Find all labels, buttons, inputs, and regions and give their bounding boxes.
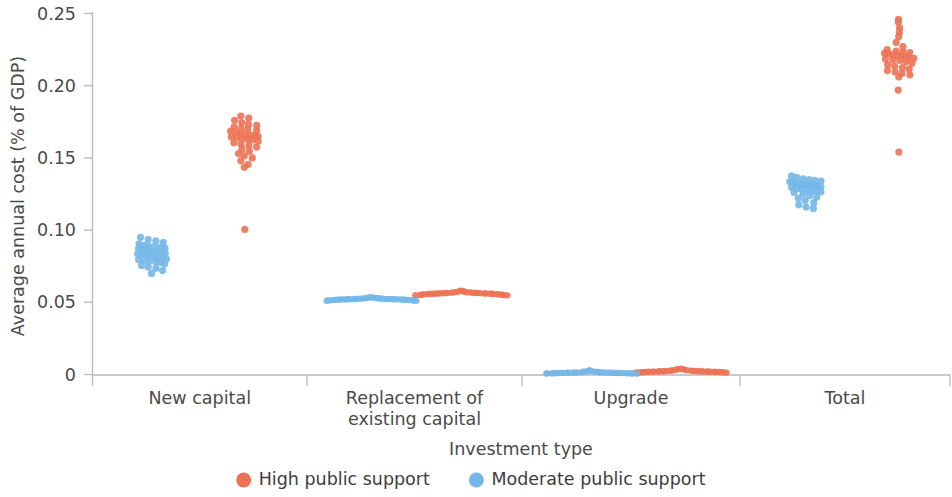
- data-point: [795, 195, 802, 202]
- y-axis-title: Average annual cost (% of GDP): [8, 56, 28, 336]
- y-tick-label: 0.10: [37, 220, 76, 240]
- legend-item-high-public-support[interactable]: High public support: [236, 469, 430, 489]
- data-point: [895, 73, 902, 80]
- data-point: [138, 262, 145, 269]
- x-category-label-line2: existing capital: [348, 409, 481, 429]
- data-point: [231, 117, 238, 124]
- data-point: [795, 201, 802, 208]
- legend-item-moderate-public-support[interactable]: Moderate public support: [469, 469, 706, 489]
- data-point: [895, 86, 902, 93]
- x-category-label: Upgrade: [594, 388, 669, 408]
- legend-label: Moderate public support: [491, 469, 705, 489]
- data-point: [230, 139, 237, 146]
- x-axis-title: Investment type: [449, 439, 593, 459]
- y-tick-label: 0.15: [37, 148, 76, 168]
- data-point: [896, 57, 903, 64]
- data-point: [253, 143, 260, 150]
- legend-marker-icon: [236, 473, 251, 488]
- data-point: [543, 370, 549, 376]
- data-point: [723, 369, 729, 375]
- data-point: [161, 260, 168, 267]
- legend-label: High public support: [259, 469, 430, 489]
- x-category-label: Replacement of: [346, 388, 484, 408]
- chart-legend: High public supportModerate public suppo…: [236, 469, 706, 489]
- data-point: [137, 234, 144, 241]
- y-axis: 00.050.100.150.200.25: [37, 4, 92, 385]
- data-point: [323, 298, 329, 304]
- x-category-label: New capital: [149, 388, 252, 408]
- chart-svg: 00.050.100.150.200.25 New capitalReplace…: [0, 0, 952, 497]
- data-point: [237, 112, 244, 119]
- data-point: [884, 67, 891, 74]
- y-tick-label: 0: [65, 365, 76, 385]
- data-point: [241, 164, 248, 171]
- data-point: [803, 203, 810, 210]
- data-point: [145, 263, 152, 270]
- scatter-chart: 00.050.100.150.200.25 New capitalReplace…: [0, 0, 952, 497]
- x-axis: New capitalReplacement ofexisting capita…: [93, 375, 951, 429]
- data-point: [237, 157, 244, 164]
- data-point: [413, 298, 419, 304]
- data-point: [790, 189, 797, 196]
- data-point: [893, 39, 900, 46]
- data-point: [245, 115, 252, 122]
- x-axis-ticks: [93, 375, 951, 386]
- legend-marker-icon: [469, 473, 484, 488]
- x-axis-category-labels: New capitalReplacement ofexisting capita…: [149, 388, 866, 429]
- data-points-layer: [134, 16, 917, 377]
- data-point: [633, 370, 639, 376]
- data-point: [889, 56, 896, 63]
- series-moderate-public-support: [134, 172, 824, 376]
- data-point: [249, 154, 256, 161]
- y-tick-label: 0.25: [37, 4, 76, 24]
- data-point: [810, 205, 817, 212]
- data-point: [241, 226, 248, 233]
- y-axis-ticks: [84, 14, 93, 375]
- x-category-label: Total: [824, 388, 866, 408]
- data-point: [504, 292, 510, 298]
- data-point: [802, 197, 809, 204]
- data-point: [906, 71, 913, 78]
- y-tick-label: 0.20: [37, 76, 76, 96]
- y-axis-tick-labels: 00.050.100.150.200.25: [37, 4, 76, 385]
- data-point: [148, 270, 155, 277]
- data-point: [159, 267, 166, 274]
- y-tick-label: 0.05: [37, 292, 76, 312]
- data-point: [895, 149, 902, 156]
